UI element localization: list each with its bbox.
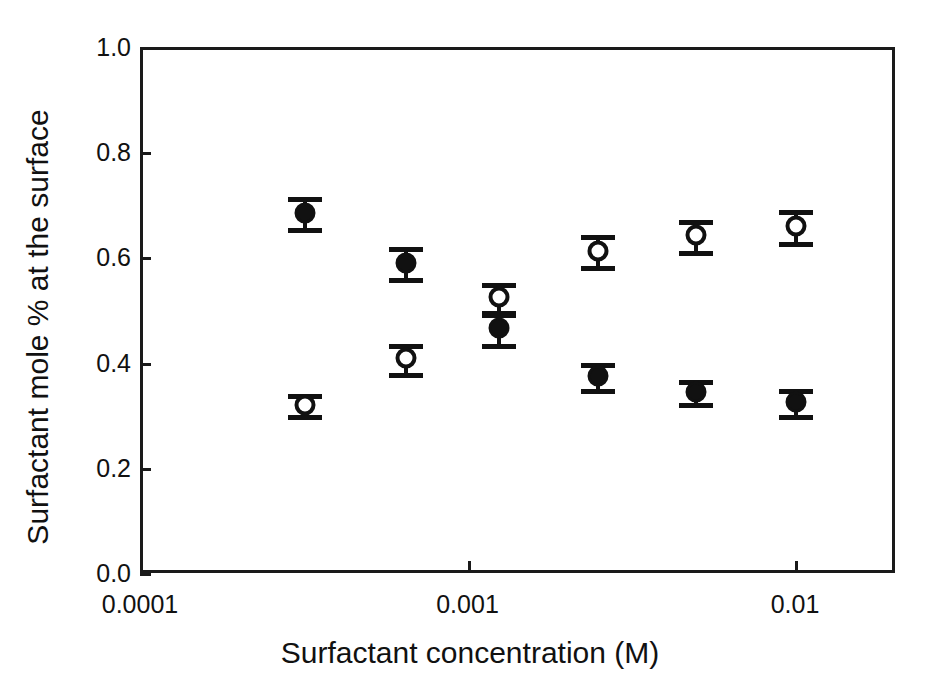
error-bar-cap-bottom [679, 403, 713, 408]
open-circle-marker [396, 348, 417, 369]
x-tick-label: 0.001 [436, 590, 499, 619]
filled-circle-marker [396, 252, 417, 273]
filled-circle-marker [786, 392, 807, 413]
plot-area: 0.00.20.40.60.81.0 0.00010.0010.01 [140, 47, 895, 573]
error-bar-cap-bottom [581, 389, 615, 394]
y-tick-mark [140, 573, 151, 576]
error-bar-cap-bottom [389, 278, 423, 283]
error-bar-cap-bottom [389, 373, 423, 378]
error-bar-cap-bottom [482, 311, 516, 316]
y-tick-label: 0.2 [96, 453, 131, 482]
y-tick-label: 1.0 [96, 33, 131, 62]
x-tick-mark [140, 561, 143, 573]
x-tick-mark [468, 561, 471, 573]
error-bar-cap-top [389, 247, 423, 252]
y-tick-label: 0.8 [96, 138, 131, 167]
error-bar-cap-top [779, 210, 813, 215]
error-bar-cap-bottom [779, 415, 813, 420]
y-axis-title: Surfactant mole % at the surface [21, 47, 55, 607]
filled-circle-marker [686, 381, 707, 402]
error-bar-cap-top [288, 197, 322, 202]
open-circle-marker [686, 225, 707, 246]
error-bar-cap-bottom [779, 242, 813, 247]
x-tick-label: 0.01 [771, 590, 820, 619]
y-tick-mark [140, 257, 151, 260]
open-circle-marker [587, 240, 608, 261]
filled-circle-marker [489, 318, 510, 339]
x-tick-mark [795, 561, 798, 573]
y-tick-mark [140, 152, 151, 155]
error-bar-cap-bottom [679, 251, 713, 256]
figure-scatter-plot: 0.00.20.40.60.81.0 0.00010.0010.01 Surfa… [0, 0, 940, 693]
error-bar-cap-top [581, 235, 615, 240]
y-tick-mark [140, 468, 151, 471]
error-bar-cap-bottom [288, 415, 322, 420]
error-bar-cap-bottom [482, 344, 516, 349]
error-bar-cap-top [679, 220, 713, 225]
y-tick-label: 0.0 [96, 559, 131, 588]
filled-circle-marker [295, 202, 316, 223]
x-axis-title: Surfactant concentration (M) [0, 636, 940, 670]
y-tick-mark [140, 363, 151, 366]
open-circle-marker [295, 394, 316, 415]
error-bar-cap-bottom [288, 228, 322, 233]
y-tick-mark [140, 47, 151, 50]
open-circle-marker [489, 286, 510, 307]
y-tick-label: 0.4 [96, 348, 131, 377]
error-bar-cap-bottom [581, 266, 615, 271]
x-tick-label: 0.0001 [102, 590, 178, 619]
filled-circle-marker [587, 365, 608, 386]
y-tick-label: 0.6 [96, 243, 131, 272]
open-circle-marker [786, 215, 807, 236]
